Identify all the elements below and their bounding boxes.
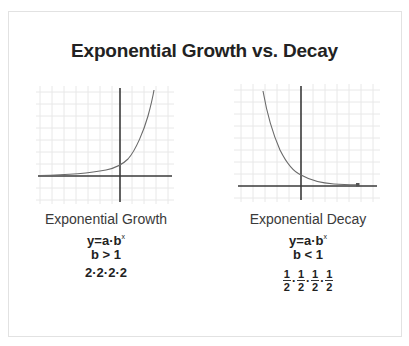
fraction-denominator: 2 xyxy=(298,281,304,292)
fraction-denominator: 2 xyxy=(312,281,318,292)
growth-condition: b > 1 xyxy=(30,246,182,264)
fraction-numerator: 1 xyxy=(325,269,333,281)
decay-condition: b < 1 xyxy=(228,246,388,264)
growth-label: Exponential Growth xyxy=(30,210,182,228)
growth-description: Exponential Growth y=a·bx b > 1 2·2·2·2 xyxy=(30,210,182,282)
fraction-denominator: 2 xyxy=(326,281,332,292)
decay-description: Exponential Decay y=a·bx b < 1 12 · 12 ·… xyxy=(228,210,388,292)
curve-end-marker xyxy=(356,183,360,187)
multiply-dot: · xyxy=(306,276,310,286)
fraction-numerator: 1 xyxy=(311,269,319,281)
decay-graph xyxy=(234,84,380,202)
page-title: Exponential Growth vs. Decay xyxy=(0,40,409,62)
fraction-numerator: 1 xyxy=(283,269,291,281)
fraction: 12 xyxy=(325,269,333,292)
growth-example: 2·2·2·2 xyxy=(30,264,182,282)
growth-formula-exponent: x xyxy=(121,233,125,240)
growth-curve xyxy=(40,90,154,176)
decay-formula: y=a·bx xyxy=(228,228,388,246)
fraction-numerator: 1 xyxy=(297,269,305,281)
decay-example: 12 · 12 · 12 · 12 xyxy=(283,269,334,292)
fraction: 12 xyxy=(283,269,291,292)
fraction: 12 xyxy=(297,269,305,292)
growth-formula: y=a·bx xyxy=(30,228,182,246)
multiply-dot: · xyxy=(320,276,324,286)
multiply-dot: · xyxy=(292,276,296,286)
decay-formula-exponent: x xyxy=(323,233,327,240)
fraction-denominator: 2 xyxy=(284,281,290,292)
fraction: 12 xyxy=(311,269,319,292)
grid-lines xyxy=(36,86,174,204)
growth-graph xyxy=(36,86,174,204)
decay-label: Exponential Decay xyxy=(228,210,388,228)
